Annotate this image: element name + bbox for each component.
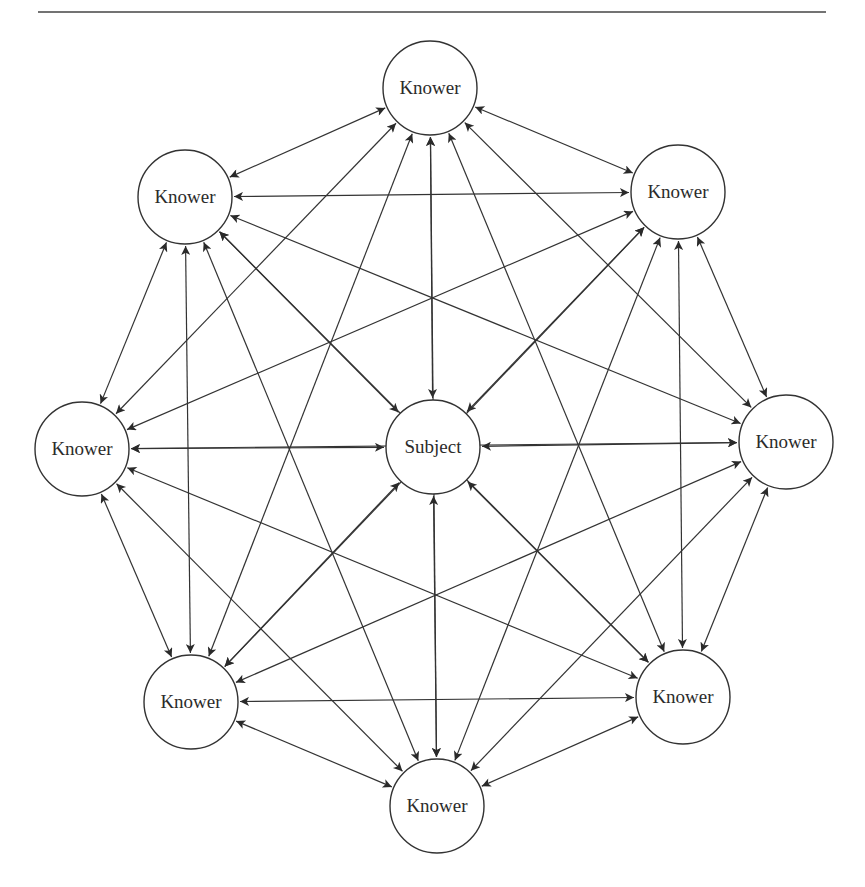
- edge-top-top-left: [230, 108, 385, 177]
- edge-top-right-bottom-right: [678, 241, 682, 648]
- edge-bottom-right-bottom: [482, 717, 638, 786]
- node-label: Knower: [160, 691, 222, 712]
- edge-left-bottom-right: [127, 468, 637, 679]
- edge-top-right-left: [127, 211, 633, 429]
- edge-right-bottom-left: [236, 462, 741, 683]
- node-bottom-left: Knower: [144, 655, 238, 749]
- node-label: Knower: [406, 795, 468, 816]
- edge-left-bottom-left: [101, 494, 171, 657]
- node-top-right: Knower: [631, 145, 725, 239]
- edge-top-left-left: [101, 242, 167, 403]
- node-left: Knower: [35, 402, 129, 496]
- node-label: Knower: [647, 181, 709, 202]
- node-bottom-right: Knower: [636, 650, 730, 744]
- edge-top-top-right: [475, 107, 633, 173]
- node-label: Knower: [755, 431, 817, 452]
- edge-top-bottom-right: [449, 133, 664, 651]
- node-center: Subject: [386, 400, 480, 494]
- node-bottom: Knower: [390, 759, 484, 853]
- edge-top-right-right: [697, 237, 766, 397]
- node-top-left: Knower: [138, 150, 232, 244]
- edge-center-bottom-left: [225, 483, 400, 667]
- edge-center-bottom: [434, 496, 437, 757]
- edge-top-left-bottom: [204, 242, 419, 760]
- node-label: Knower: [154, 186, 216, 207]
- node-label: Knower: [652, 686, 714, 707]
- nodes-layer: KnowerKnowerKnowerKnowerSubjectKnowerKno…: [35, 41, 833, 853]
- node-label: Knower: [399, 77, 461, 98]
- edge-bottom-left-bottom-right: [240, 697, 634, 701]
- edge-bottom-left-bottom: [236, 721, 392, 787]
- node-top: Knower: [383, 41, 477, 135]
- node-right: Knower: [739, 395, 833, 489]
- knowledge-network-diagram: KnowerKnowerKnowerKnowerSubjectKnowerKno…: [0, 0, 865, 887]
- node-label: Knower: [51, 438, 113, 459]
- edge-top-left-bottom-left: [186, 246, 191, 653]
- edge-center-bottom-right: [468, 482, 649, 663]
- node-label: Subject: [405, 436, 463, 457]
- edge-right-bottom-right: [701, 487, 767, 651]
